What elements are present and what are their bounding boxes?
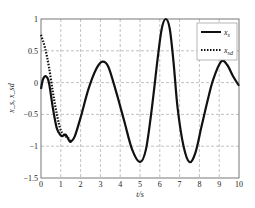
x-tick-label: 6 [158,180,162,189]
x-tick-label: 4 [118,180,122,189]
x-tick-label: 3 [98,180,102,189]
x-tick-label: 8 [197,180,201,189]
x-axis-label: t/s [136,190,144,199]
x-tick-label: 9 [217,180,221,189]
x-tick-label: 0 [39,180,43,189]
y-tick-label: 0.5 [28,47,38,56]
y-tick-label: −0.5 [23,110,38,119]
x-tick-label: 10 [235,180,243,189]
y-axis-label: x_s, x_sd [7,82,16,113]
line-chart: 01234567891010.50−0.5−1−1.5 xs xsd t/s x… [0,0,255,208]
y-tick-label: 0 [34,79,38,88]
y-tick-label: 1 [34,15,38,24]
y-tick-label: −1 [29,142,38,151]
x-tick-label: 2 [79,180,83,189]
x-tick-label: 7 [178,180,182,189]
x-tick-label: 5 [138,180,142,189]
legend: xs xsd [197,23,237,60]
y-tick-label: −1.5 [23,174,38,183]
x-tick-label: 1 [59,180,63,189]
